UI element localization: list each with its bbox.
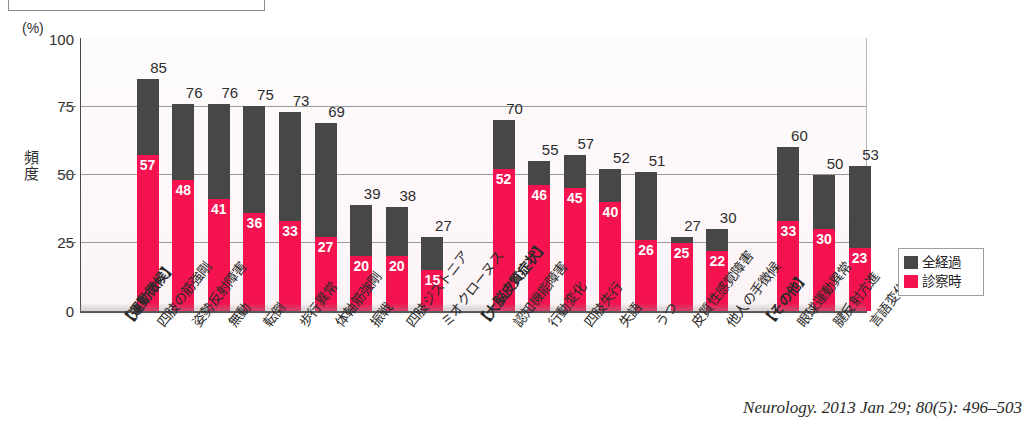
legend-item-total[interactable]: 全経過 bbox=[904, 253, 978, 272]
chart-figure: (%) 頻度 100 75 50 25 0 【運動徴候】四肢の筋強剛8557姿勢… bbox=[0, 0, 1036, 437]
bar-value-label-total: 38 bbox=[386, 188, 430, 203]
bar-value-label-exam: 46 bbox=[528, 188, 550, 202]
bar-value-label-exam: 33 bbox=[777, 224, 799, 238]
x-axis-label-3: 無動 bbox=[222, 298, 254, 331]
legend: 全経過 診察時 bbox=[898, 248, 984, 296]
bar-value-label-total: 51 bbox=[635, 153, 679, 168]
bar-value-label-exam: 22 bbox=[706, 254, 728, 268]
bar-value-label-total: 27 bbox=[421, 218, 465, 233]
bar-value-label-exam: 33 bbox=[279, 224, 301, 238]
citation: Neurology. 2013 Jan 29; 80(5): 496–503 bbox=[743, 398, 1022, 418]
x-axis-label-4: 転倒 bbox=[257, 298, 289, 331]
bar-value-label-total: 70 bbox=[493, 101, 537, 116]
bar-value-label-exam: 41 bbox=[208, 202, 230, 216]
bar-value-label-exam: 26 bbox=[635, 243, 657, 257]
bar-value-label-exam: 15 bbox=[421, 273, 443, 287]
bar-value-label-exam: 52 bbox=[493, 172, 515, 186]
x-axis-label-7: 振戦 bbox=[364, 298, 396, 331]
x-axis-labels: 【運動徴候】四肢の筋強剛8557姿勢反射障害7648無動7641転倒7536歩行… bbox=[0, 0, 1036, 437]
legend-item-exam[interactable]: 診察時 bbox=[904, 272, 978, 291]
bar-value-label-exam: 48 bbox=[172, 183, 194, 197]
bar-value-label-total: 69 bbox=[315, 104, 359, 119]
bar-value-label-exam: 36 bbox=[243, 216, 265, 230]
bar-value-label-exam: 45 bbox=[564, 191, 586, 205]
bar-value-label-exam: 40 bbox=[599, 205, 621, 219]
bar-value-label-exam: 23 bbox=[849, 251, 871, 265]
bar-value-label-total: 30 bbox=[706, 210, 750, 225]
bar-value-label-exam: 30 bbox=[813, 232, 835, 246]
bar-value-label-total: 53 bbox=[849, 147, 893, 162]
legend-swatch-icon-exam bbox=[904, 275, 918, 288]
bar-value-label-exam: 27 bbox=[315, 240, 337, 254]
bar-value-label-exam: 20 bbox=[350, 259, 372, 273]
bar-value-label-exam: 25 bbox=[671, 246, 693, 260]
legend-label-exam: 診察時 bbox=[922, 275, 961, 289]
bar-value-label-total: 60 bbox=[777, 128, 821, 143]
legend-label-total: 全経過 bbox=[922, 256, 961, 270]
x-axis-label-15: うつ bbox=[649, 298, 681, 331]
bar-value-label-exam: 20 bbox=[386, 259, 408, 273]
bar-value-label-exam: 57 bbox=[137, 158, 159, 172]
bar-value-label-total: 85 bbox=[137, 60, 181, 75]
legend-swatch-icon-total bbox=[904, 256, 918, 269]
x-axis-label-14: 失語 bbox=[613, 298, 645, 331]
